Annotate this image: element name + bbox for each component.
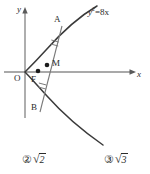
choice-marker-3: ③ [104,153,114,165]
choice-radical-2: √2 [32,152,46,167]
point-label-B: B [31,103,37,112]
answer-choice-2[interactable]: ②√2 [22,152,46,167]
x-axis-arrow-icon [130,69,137,74]
origin-label: O [14,74,21,83]
parabola-curve [25,6,103,145]
x-axis-label: x [137,70,141,79]
point-F-marker [36,69,41,74]
point-M-marker [45,63,50,68]
sqrt-value-2: 2 [39,153,46,165]
figure-canvas [0,0,150,148]
y-axis-label: y [17,5,21,14]
point-label-F: F [31,75,36,84]
curve-equation-label: y2=8x [88,6,109,17]
answer-choices-row: ②√2 ③√3 [0,148,150,174]
geometry-figure: y x O A F M B y2=8x [0,0,150,148]
answer-choice-3[interactable]: ③√3 [104,152,128,167]
point-label-A: A [54,15,61,24]
choice-marker-2: ② [22,153,32,165]
focal-chord-AB [40,26,62,112]
point-label-M: M [52,59,60,68]
y-axis-arrow-icon [22,7,27,14]
curve-equation-rest: =8x [95,7,109,17]
chord-tick-lower-2 [39,83,46,85]
choice-radical-3: √3 [114,152,128,167]
sqrt-value-3: 3 [121,153,128,165]
